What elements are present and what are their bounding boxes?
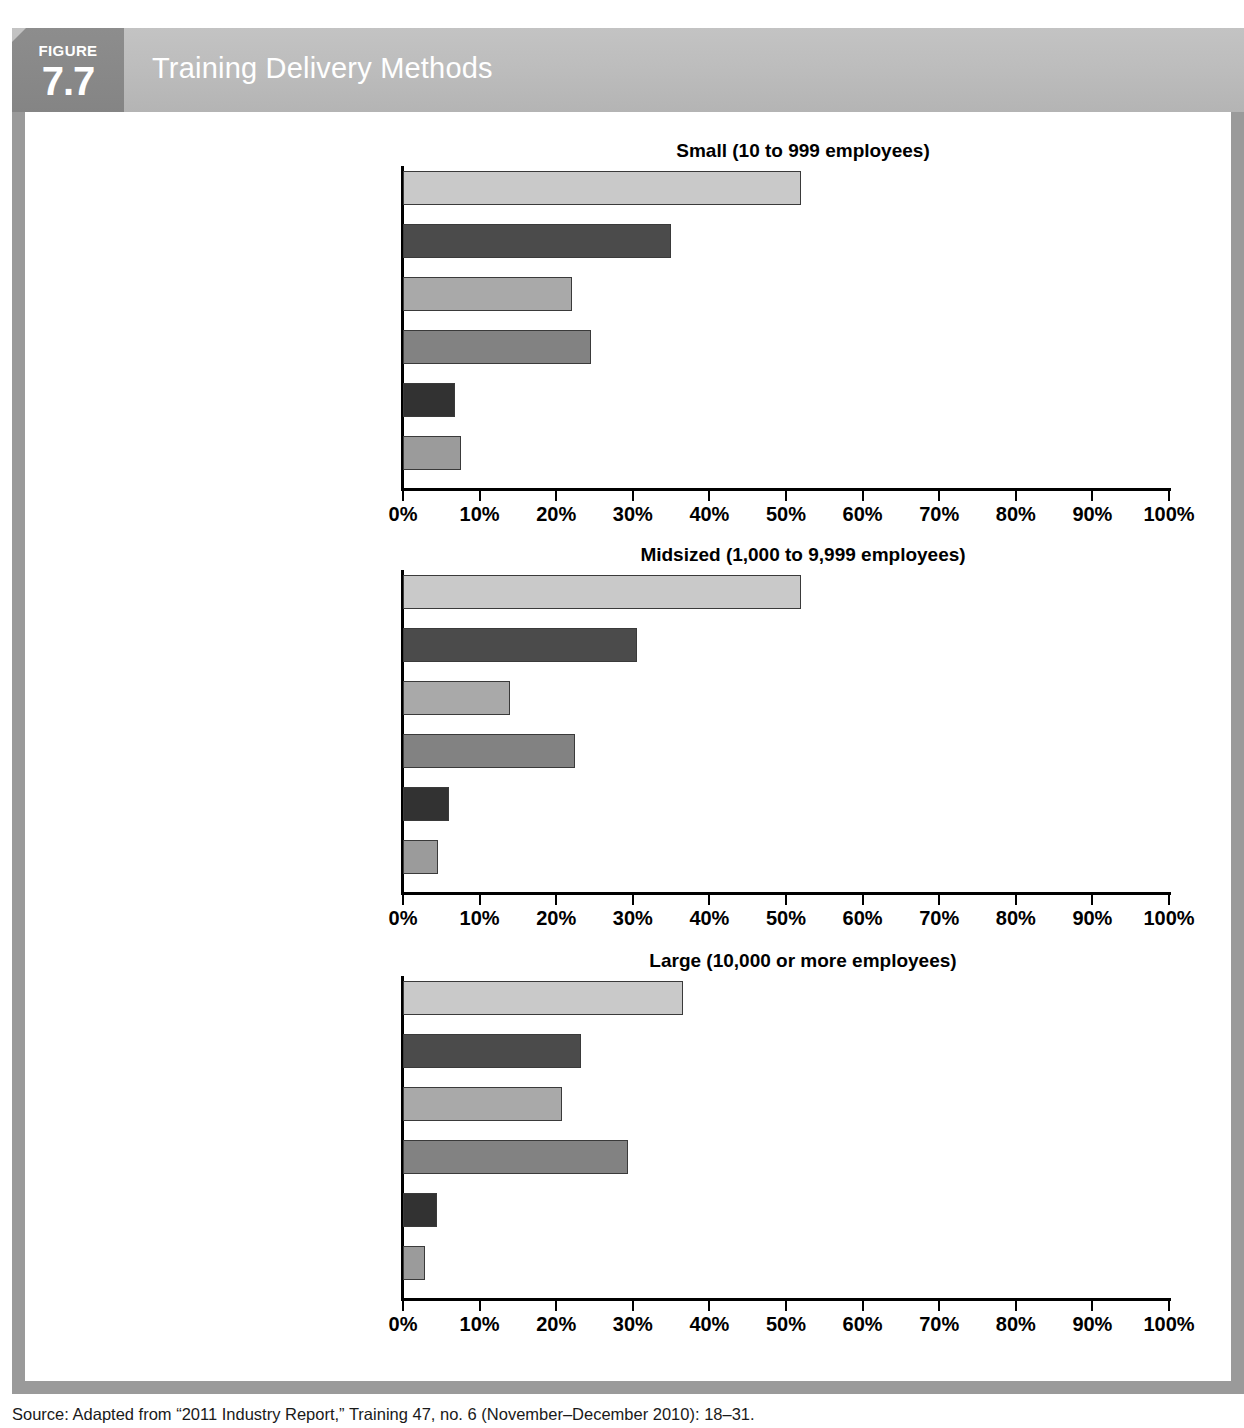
- x-axis-tick: [402, 491, 404, 501]
- bar: [403, 1193, 437, 1227]
- x-axis-tick: [862, 491, 864, 501]
- x-axis-tick: [708, 491, 710, 501]
- x-axis-tick-label: 70%: [899, 503, 979, 526]
- figure-frame: Small (10 to 999 employees)0%10%20%30%40…: [12, 112, 1244, 1394]
- bar: [403, 1140, 628, 1174]
- x-axis-tick-label: 90%: [1052, 1313, 1132, 1336]
- x-axis-tick-label: 100%: [1129, 1313, 1209, 1336]
- x-axis-tick-label: 20%: [516, 1313, 596, 1336]
- x-axis-tick-label: 0%: [363, 503, 443, 526]
- x-axis-tick-label: 40%: [669, 1313, 749, 1336]
- bar: [403, 171, 801, 205]
- x-axis-tick-label: 90%: [1052, 907, 1132, 930]
- x-axis-tick: [1015, 895, 1017, 905]
- figure-badge-word: FIGURE: [12, 42, 124, 59]
- figure-title: Training Delivery Methods: [152, 52, 493, 85]
- x-axis-tick-label: 70%: [899, 907, 979, 930]
- x-axis-tick-label: 80%: [976, 907, 1056, 930]
- bar: [403, 330, 591, 364]
- x-axis-tick: [402, 895, 404, 905]
- x-axis-tick-label: 30%: [593, 503, 673, 526]
- x-axis-tick-label: 60%: [823, 1313, 903, 1336]
- x-axis-tick-label: 50%: [746, 907, 826, 930]
- source-note: Source: Adapted from “2011 Industry Repo…: [12, 1404, 1232, 1424]
- x-axis-tick-label: 60%: [823, 503, 903, 526]
- x-axis-tick-label: 100%: [1129, 907, 1209, 930]
- bar: [403, 840, 438, 874]
- x-axis-tick-label: 100%: [1129, 503, 1209, 526]
- x-axis-tick-label: 0%: [363, 907, 443, 930]
- x-axis-tick-label: 40%: [669, 503, 749, 526]
- x-axis-tick-label: 50%: [746, 503, 826, 526]
- x-axis-tick-label: 50%: [746, 1313, 826, 1336]
- bar: [403, 981, 683, 1015]
- x-axis-tick: [1091, 1301, 1093, 1311]
- plot-area-small: 0%10%20%30%40%50%60%70%80%90%100%Instruc…: [403, 166, 1169, 488]
- x-axis-tick: [862, 1301, 864, 1311]
- x-axis-tick: [632, 895, 634, 905]
- x-axis-tick-label: 80%: [976, 503, 1056, 526]
- x-axis-tick: [785, 491, 787, 501]
- bar: [403, 277, 572, 311]
- bar: [403, 1034, 581, 1068]
- x-axis-tick: [938, 491, 940, 501]
- x-axis-tick: [1015, 1301, 1017, 1311]
- x-axis-tick-label: 20%: [516, 907, 596, 930]
- bar: [403, 734, 575, 768]
- x-axis-tick: [1168, 491, 1170, 501]
- x-axis-tick-label: 40%: [669, 907, 749, 930]
- x-axis-tick: [1168, 1301, 1170, 1311]
- x-axis-tick-label: 10%: [440, 907, 520, 930]
- x-axis-tick-label: 80%: [976, 1313, 1056, 1336]
- x-axis-tick: [785, 1301, 787, 1311]
- chart-title-small: Small (10 to 999 employees): [403, 140, 1203, 162]
- charts-container: Small (10 to 999 employees)0%10%20%30%40…: [25, 112, 1231, 1381]
- x-axis-tick-label: 10%: [440, 503, 520, 526]
- figure-badge-number: 7.7: [12, 58, 124, 104]
- x-axis-tick: [555, 895, 557, 905]
- chart-panel-midsized: Midsized (1,000 to 9,999 employees)0%10%…: [25, 544, 1231, 954]
- x-axis-tick-label: 60%: [823, 907, 903, 930]
- chart-title-midsized: Midsized (1,000 to 9,999 employees): [403, 544, 1203, 566]
- bar: [403, 383, 455, 417]
- x-axis-tick: [708, 895, 710, 905]
- x-axis-tick: [862, 895, 864, 905]
- x-axis-tick: [785, 895, 787, 905]
- x-axis-tick: [938, 895, 940, 905]
- chart-panel-large: Large (10,000 or more employees)0%10%20%…: [25, 950, 1231, 1360]
- bar: [403, 681, 510, 715]
- bar: [403, 575, 801, 609]
- x-axis-tick-label: 30%: [593, 1313, 673, 1336]
- bar: [403, 224, 671, 258]
- x-axis-tick: [479, 1301, 481, 1311]
- bar: [403, 628, 637, 662]
- x-axis-tick: [1168, 895, 1170, 905]
- x-axis-tick: [479, 491, 481, 501]
- x-axis-tick: [555, 491, 557, 501]
- figure-number-badge: FIGURE 7.7: [12, 28, 124, 116]
- x-axis-tick: [402, 1301, 404, 1311]
- plot-area-midsized: 0%10%20%30%40%50%60%70%80%90%100%Instruc…: [403, 570, 1169, 892]
- x-axis-tick: [1015, 491, 1017, 501]
- x-axis-tick: [632, 491, 634, 501]
- bar: [403, 1246, 425, 1280]
- bar: [403, 787, 449, 821]
- x-axis-tick-label: 70%: [899, 1313, 979, 1336]
- x-axis-tick: [1091, 491, 1093, 501]
- x-axis-tick-label: 0%: [363, 1313, 443, 1336]
- x-axis-tick: [1091, 895, 1093, 905]
- x-axis-tick-label: 20%: [516, 503, 596, 526]
- bar: [403, 1087, 562, 1121]
- x-axis-tick: [479, 895, 481, 905]
- x-axis-tick: [632, 1301, 634, 1311]
- x-axis-tick: [708, 1301, 710, 1311]
- chart-panel-small: Small (10 to 999 employees)0%10%20%30%40…: [25, 140, 1231, 550]
- x-axis-tick-label: 90%: [1052, 503, 1132, 526]
- plot-area-large: 0%10%20%30%40%50%60%70%80%90%100%Instruc…: [403, 976, 1169, 1298]
- x-axis-tick-label: 30%: [593, 907, 673, 930]
- chart-title-large: Large (10,000 or more employees): [403, 950, 1203, 972]
- bar: [403, 436, 461, 470]
- x-axis-tick-label: 10%: [440, 1313, 520, 1336]
- x-axis-tick: [555, 1301, 557, 1311]
- x-axis-tick: [938, 1301, 940, 1311]
